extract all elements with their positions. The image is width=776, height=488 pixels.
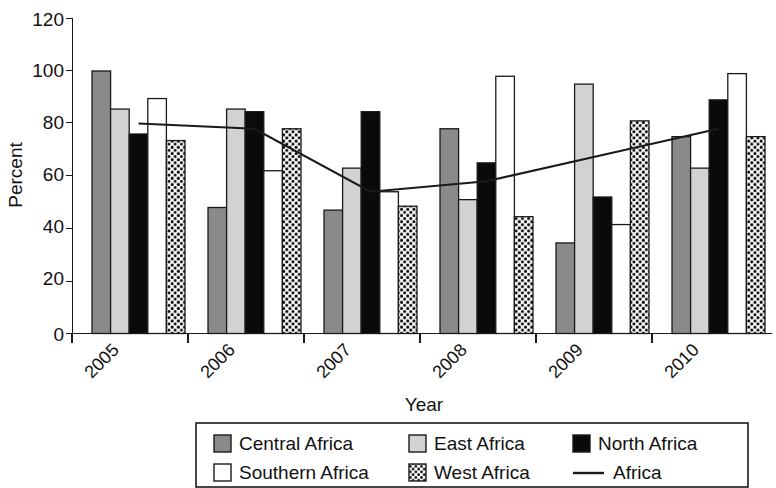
legend-swatch-southern-africa xyxy=(214,464,231,481)
bar-central-africa-2008 xyxy=(440,129,459,334)
legend-swatch-central-africa xyxy=(214,435,231,452)
bar-east-africa-2005 xyxy=(111,109,130,333)
bar-central-africa-2010 xyxy=(672,137,691,334)
bar-west-africa-2006 xyxy=(282,129,301,334)
legend-swatch-north-africa xyxy=(573,435,590,452)
bar-southern-africa-2006 xyxy=(264,171,283,334)
y-tick-label: 80 xyxy=(43,112,64,133)
y-tick-label: 0 xyxy=(53,324,64,345)
bar-east-africa-2010 xyxy=(691,168,710,333)
bar-central-africa-2009 xyxy=(556,243,575,334)
y-tick-label: 60 xyxy=(43,164,64,185)
bar-west-africa-2010 xyxy=(746,137,765,334)
bar-east-africa-2009 xyxy=(575,84,594,333)
legend-swatch-west-africa xyxy=(409,464,426,481)
legend-swatch-east-africa xyxy=(409,435,426,452)
y-axis-tick-labels: 120 100 80 60 40 20 0 xyxy=(32,9,64,345)
legend-label-southern-africa: Southern Africa xyxy=(239,462,369,483)
x-tick-label-2007: 2007 xyxy=(312,340,354,382)
bar-north-africa-2006 xyxy=(245,112,264,334)
y-tick-label: 40 xyxy=(43,216,64,237)
bar-central-africa-2007 xyxy=(324,210,343,333)
y-tick-label: 20 xyxy=(43,268,64,289)
bar-central-africa-2005 xyxy=(92,71,111,334)
x-tick-label-2005: 2005 xyxy=(80,340,122,382)
x-axis-tick-labels: 200520062007200820092010 xyxy=(80,340,702,382)
y-axis-title: Percent xyxy=(5,142,26,208)
bar-west-africa-2008 xyxy=(514,217,533,334)
bars-layer xyxy=(92,71,765,334)
x-tick-label-2009: 2009 xyxy=(544,340,586,382)
bar-north-africa-2010 xyxy=(709,100,728,334)
bar-west-africa-2007 xyxy=(398,206,417,333)
bar-north-africa-2008 xyxy=(477,163,496,334)
bar-southern-africa-2009 xyxy=(612,225,631,334)
bar-southern-africa-2007 xyxy=(380,192,399,334)
bar-north-africa-2005 xyxy=(129,134,148,334)
x-axis-title: Year xyxy=(405,394,444,415)
legend-label-central-africa: Central Africa xyxy=(239,433,353,454)
bar-central-africa-2006 xyxy=(208,208,227,334)
y-tick-label: 100 xyxy=(32,60,64,81)
x-axis xyxy=(72,334,772,343)
x-tick-label-2010: 2010 xyxy=(660,340,702,382)
bar-north-africa-2007 xyxy=(361,112,380,334)
bar-southern-africa-2010 xyxy=(728,74,747,334)
bar-west-africa-2005 xyxy=(166,141,185,334)
legend-label-africa: Africa xyxy=(613,462,662,483)
y-axis xyxy=(66,18,73,334)
grouped-bar-chart: Percent 120 100 80 60 40 20 0 xyxy=(0,0,776,488)
bar-east-africa-2007 xyxy=(343,168,362,333)
chart-legend: Central Africa East Africa North Africa … xyxy=(196,423,748,487)
y-tick-label: 120 xyxy=(32,9,64,30)
bar-southern-africa-2005 xyxy=(148,99,167,334)
chart-container: Percent 120 100 80 60 40 20 0 xyxy=(0,0,776,488)
legend-label-west-africa: West Africa xyxy=(434,462,530,483)
legend-label-east-africa: East Africa xyxy=(434,433,525,454)
bar-north-africa-2009 xyxy=(593,197,612,334)
bar-east-africa-2006 xyxy=(227,109,246,333)
legend-label-north-africa: North Africa xyxy=(598,433,698,454)
x-tick-label-2008: 2008 xyxy=(428,340,470,382)
x-tick-label-2006: 2006 xyxy=(196,340,238,382)
bar-southern-africa-2008 xyxy=(496,76,515,333)
bar-west-africa-2009 xyxy=(630,121,649,334)
bar-east-africa-2008 xyxy=(459,200,478,334)
